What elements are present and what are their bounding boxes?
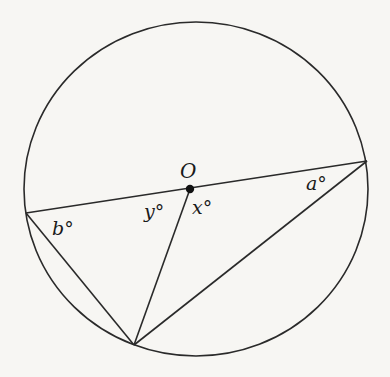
geometry-diagram: O y° x° a° b° xyxy=(0,0,390,377)
chord-left-bottom xyxy=(26,213,134,345)
angle-label-a: a° xyxy=(306,172,327,194)
center-point xyxy=(186,185,194,193)
angle-label-y: y° xyxy=(143,200,164,222)
angle-label-b: b° xyxy=(52,217,74,239)
center-label: O xyxy=(180,159,196,183)
chord-right-bottom xyxy=(134,161,367,345)
angle-label-x: x° xyxy=(192,196,212,218)
